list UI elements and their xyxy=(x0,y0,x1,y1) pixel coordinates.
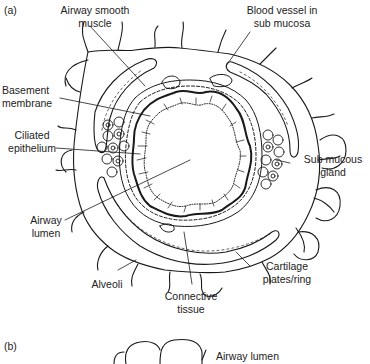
cartilage-plates xyxy=(94,59,299,265)
panel-b-airway xyxy=(114,340,206,364)
label-panel-b-airway-lumen: Airway lumen xyxy=(216,350,279,363)
label-basement-membrane: Basement membrane xyxy=(2,84,52,109)
label-ciliated-epithelium: Ciliated epithelium xyxy=(4,129,60,154)
label-sub-mucous-gland: Sub mucous gland xyxy=(300,153,366,178)
label-cartilage-plates: Cartilage plates/ring xyxy=(256,260,318,285)
label-airway-lumen: Airway lumen xyxy=(26,214,66,239)
label-connective-tissue: Connective tissue xyxy=(160,290,222,315)
panel-b-tag: (b) xyxy=(4,340,17,352)
airway-wall xyxy=(119,74,262,232)
label-airway-smooth-muscle: Airway smooth muscle xyxy=(50,4,140,29)
label-alveoli: Alveoli xyxy=(82,278,132,291)
label-blood-vessel: Blood vessel in sub mucosa xyxy=(232,4,332,29)
panel-a-tag: (a) xyxy=(4,4,17,16)
